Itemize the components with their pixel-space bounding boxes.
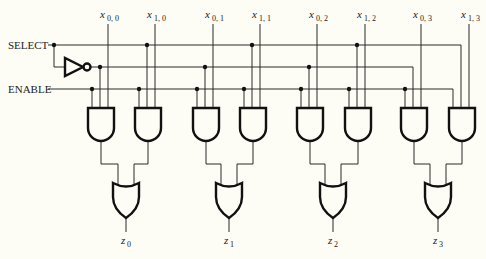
output-label-subscript: 1: [230, 240, 234, 249]
input-label-subscript: 0, 0: [107, 14, 119, 23]
junction-dot: [347, 87, 351, 91]
junction-dot: [250, 43, 254, 47]
select-line: [48, 45, 461, 108]
and-gate-icon: [449, 108, 475, 141]
input-label-subscript: 0, 2: [316, 14, 328, 23]
and-to-or-wire: [206, 141, 221, 186]
junction-dot: [145, 43, 149, 47]
junction-dot: [403, 87, 407, 91]
output-label-subscript: 0: [127, 240, 131, 249]
and-to-or-wire: [414, 141, 430, 186]
input-label: x: [146, 8, 152, 20]
select-to-inverter: [54, 45, 65, 67]
multiplexer-circuit-diagram: SELECT ENABLE x0, 0x1, 0x0, 1x1, 1x0, 2x…: [0, 0, 486, 259]
output-label: z: [120, 234, 126, 246]
junction-dot: [307, 65, 311, 69]
input-label: x: [204, 8, 210, 20]
input-label: x: [356, 8, 362, 20]
output-label: z: [327, 234, 333, 246]
and-to-or-wire: [134, 141, 148, 186]
select-label: SELECT: [8, 39, 49, 51]
and-to-or-wire: [310, 141, 325, 186]
input-label: x: [251, 8, 257, 20]
input-label: x: [460, 8, 466, 20]
and-to-or-wire: [446, 141, 462, 186]
and-gate-icon: [345, 108, 371, 141]
input-label: x: [99, 8, 105, 20]
input-label-subscript: 0, 1: [212, 14, 224, 23]
junction-dot: [90, 87, 94, 91]
or-gate-icon: [216, 183, 242, 218]
output-label: z: [223, 234, 229, 246]
input-label-subscript: 0, 3: [420, 14, 432, 23]
output-label: z: [432, 234, 438, 246]
input-label-subscript: 1, 3: [468, 14, 480, 23]
input-label: x: [308, 8, 314, 20]
output-label-subscript: 3: [439, 240, 443, 249]
and-gate-icon: [88, 108, 114, 141]
junction-dot: [242, 87, 246, 91]
and-gate-icon: [135, 108, 161, 141]
junction-dot: [52, 43, 56, 47]
and-gate-icon: [401, 108, 427, 141]
junction-dot: [195, 87, 199, 91]
enable-line: [48, 89, 453, 108]
or-gate-icon: [113, 183, 139, 218]
or-gate-icon: [425, 183, 451, 218]
junction-dot: [355, 43, 359, 47]
and-gate-icon: [193, 108, 219, 141]
or-gate-icon: [320, 183, 346, 218]
and-gate-icon: [240, 108, 266, 141]
junction-dot: [203, 65, 207, 69]
and-gate-icon: [297, 108, 323, 141]
junction-dot: [137, 87, 141, 91]
inverter-bubble: [84, 64, 91, 71]
and-to-or-wire: [341, 141, 358, 186]
junction-dot: [98, 65, 102, 69]
junction-dot: [299, 87, 303, 91]
and-to-or-wire: [237, 141, 253, 186]
input-label: x: [412, 8, 418, 20]
input-label-subscript: 1, 0: [154, 14, 166, 23]
input-label-subscript: 1, 2: [364, 14, 376, 23]
enable-label: ENABLE: [8, 83, 52, 95]
not-gate-icon: [65, 58, 83, 76]
output-label-subscript: 2: [334, 240, 338, 249]
input-label-subscript: 1, 1: [259, 14, 271, 23]
and-to-or-wire: [101, 141, 118, 186]
